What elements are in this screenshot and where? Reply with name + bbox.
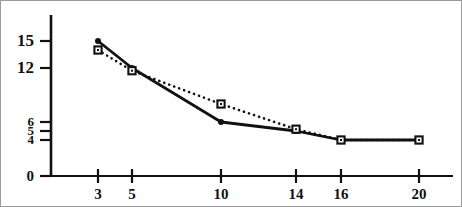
- data-point-marker-center: [418, 139, 420, 141]
- chart-canvas: [1, 1, 462, 207]
- y-tick-label: 4: [28, 132, 35, 148]
- chart-plot-area: 15 12 6 5 4 0 3 5 10 14 16 20: [1, 1, 461, 206]
- y-tick-label: 15: [17, 31, 34, 51]
- x-tick-label: 10: [214, 186, 229, 203]
- x-tick-label: 3: [94, 186, 102, 203]
- data-point-marker-center: [131, 70, 133, 72]
- y-tick-label: 0: [27, 168, 35, 185]
- x-tick-label: 16: [334, 186, 349, 203]
- data-point-marker-center: [97, 49, 99, 51]
- data-point-marker: [95, 38, 101, 44]
- data-point-marker: [218, 119, 224, 125]
- x-tick-label: 14: [289, 186, 304, 203]
- x-tick-label: 20: [412, 186, 427, 203]
- series-line-series-solid: [98, 41, 419, 140]
- chart-figure: 15 12 6 5 4 0 3 5 10 14 16 20: [0, 0, 462, 207]
- x-tick-label: 5: [128, 186, 136, 203]
- data-point-marker-center: [340, 139, 342, 141]
- data-point-marker-center: [220, 103, 222, 105]
- data-point-marker-center: [295, 128, 297, 130]
- y-tick-label: 12: [17, 58, 34, 78]
